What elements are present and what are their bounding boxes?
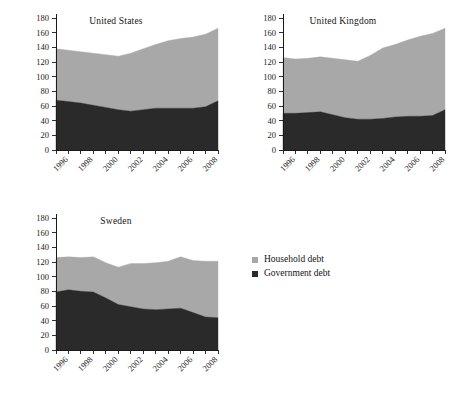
svg-text:80: 80 bbox=[41, 286, 50, 296]
legend-item-government-debt: Government debt bbox=[252, 267, 330, 280]
svg-text:2008: 2008 bbox=[200, 354, 219, 373]
svg-text:120: 120 bbox=[36, 257, 49, 267]
svg-text:100: 100 bbox=[36, 72, 49, 82]
svg-text:140: 140 bbox=[36, 242, 49, 252]
svg-text:160: 160 bbox=[36, 28, 49, 38]
svg-text:80: 80 bbox=[41, 86, 50, 96]
svg-text:1996: 1996 bbox=[278, 154, 297, 173]
svg-text:40: 40 bbox=[41, 116, 50, 126]
svg-text:0: 0 bbox=[45, 345, 49, 355]
svg-text:2006: 2006 bbox=[402, 154, 421, 173]
svg-text:140: 140 bbox=[36, 42, 49, 52]
panel-title-sweden: Sweden bbox=[0, 216, 232, 226]
svg-text:1996: 1996 bbox=[51, 354, 70, 373]
svg-text:120: 120 bbox=[36, 57, 49, 67]
svg-text:20: 20 bbox=[41, 130, 50, 140]
svg-text:2002: 2002 bbox=[353, 154, 372, 173]
panel-title-united-kingdom: United Kingdom bbox=[227, 16, 459, 26]
svg-text:2000: 2000 bbox=[101, 354, 120, 373]
svg-text:2004: 2004 bbox=[377, 154, 397, 174]
chart-legend: Household debt Government debt bbox=[252, 253, 330, 281]
figure-root: United States 02040608010012014016018019… bbox=[0, 0, 459, 396]
svg-text:2008: 2008 bbox=[427, 154, 446, 173]
plot-united-states: 0204060801001201401601801996199820002002… bbox=[0, 8, 232, 200]
legend-swatch-government-debt bbox=[252, 271, 258, 277]
svg-text:2000: 2000 bbox=[101, 154, 120, 173]
svg-text:1998: 1998 bbox=[303, 154, 322, 173]
svg-text:120: 120 bbox=[263, 57, 276, 67]
legend-item-household-debt: Household debt bbox=[252, 253, 330, 266]
svg-text:40: 40 bbox=[41, 316, 50, 326]
svg-text:1996: 1996 bbox=[51, 154, 70, 173]
svg-text:20: 20 bbox=[268, 130, 277, 140]
panel-title-united-states: United States bbox=[0, 16, 232, 26]
svg-text:60: 60 bbox=[41, 301, 50, 311]
svg-text:0: 0 bbox=[272, 145, 276, 155]
svg-text:60: 60 bbox=[268, 101, 277, 111]
panel-sweden: Sweden 020406080100120140160180199619982… bbox=[0, 208, 232, 396]
svg-text:2002: 2002 bbox=[126, 154, 145, 173]
plot-sweden: 0204060801001201401601801996199820002002… bbox=[0, 208, 232, 396]
svg-text:140: 140 bbox=[263, 42, 276, 52]
svg-text:2004: 2004 bbox=[150, 354, 170, 374]
svg-text:2006: 2006 bbox=[175, 354, 194, 373]
svg-text:2004: 2004 bbox=[150, 154, 170, 174]
svg-text:100: 100 bbox=[263, 72, 276, 82]
svg-text:160: 160 bbox=[36, 228, 49, 238]
svg-text:2008: 2008 bbox=[200, 154, 219, 173]
svg-text:80: 80 bbox=[268, 86, 277, 96]
legend-label-household-debt: Household debt bbox=[264, 253, 324, 266]
svg-text:2002: 2002 bbox=[126, 354, 145, 373]
svg-text:1998: 1998 bbox=[76, 154, 95, 173]
panel-united-kingdom: United Kingdom 0204060801001201401601801… bbox=[227, 8, 459, 200]
svg-text:40: 40 bbox=[268, 116, 277, 126]
panel-united-states: United States 02040608010012014016018019… bbox=[0, 8, 232, 200]
svg-text:60: 60 bbox=[41, 101, 50, 111]
legend-label-government-debt: Government debt bbox=[264, 267, 330, 280]
plot-united-kingdom: 0204060801001201401601801996199820002002… bbox=[227, 8, 459, 200]
svg-text:0: 0 bbox=[45, 145, 49, 155]
svg-text:100: 100 bbox=[36, 272, 49, 282]
svg-text:2006: 2006 bbox=[175, 154, 194, 173]
svg-text:20: 20 bbox=[41, 330, 50, 340]
svg-text:2000: 2000 bbox=[328, 154, 347, 173]
svg-text:160: 160 bbox=[263, 28, 276, 38]
legend-swatch-household-debt bbox=[252, 257, 258, 263]
svg-text:1998: 1998 bbox=[76, 354, 95, 373]
